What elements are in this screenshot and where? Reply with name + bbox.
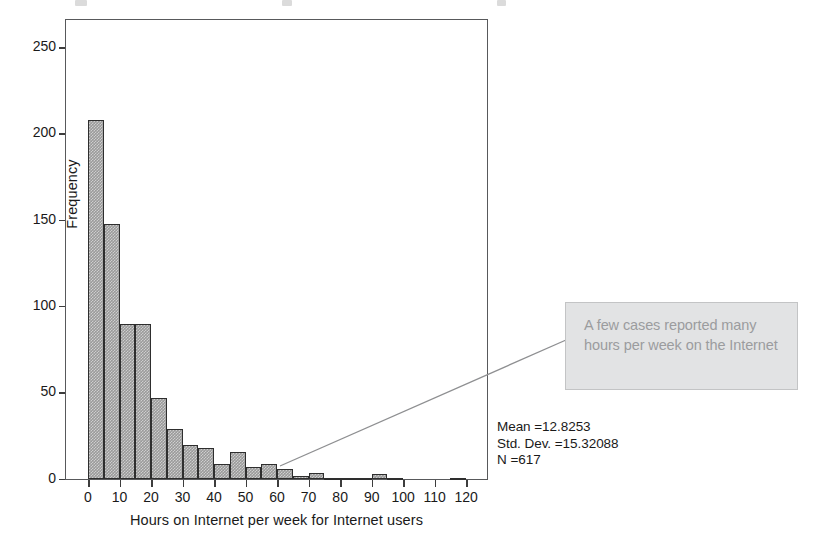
y-tick-label: 0 — [48, 470, 56, 486]
x-tick-mark — [120, 480, 122, 487]
x-tick-mark — [403, 480, 405, 487]
x-tick-mark — [88, 480, 90, 487]
x-tick-mark — [309, 480, 311, 487]
stat-n: N =617 — [497, 452, 619, 469]
y-tick-label: 50 — [40, 383, 56, 399]
y-tick-mark — [59, 306, 65, 308]
y-tick-mark — [59, 392, 65, 394]
x-tick-mark — [214, 480, 216, 487]
y-tick-label: 250 — [33, 38, 56, 54]
x-tick-mark — [183, 480, 185, 487]
x-tick-mark — [151, 480, 153, 487]
y-tick-mark — [59, 479, 65, 481]
y-tick-mark — [59, 133, 65, 135]
y-tick-label: 150 — [33, 211, 56, 227]
annotation-callout-text: A few cases reported many hours per week… — [584, 315, 789, 355]
x-tick-mark — [246, 480, 248, 487]
cropped-title-remnant — [75, 0, 87, 6]
y-tick-mark — [59, 47, 65, 49]
y-tick-mark — [59, 220, 65, 222]
x-tick-mark — [466, 480, 468, 487]
y-tick-label: 200 — [33, 124, 56, 140]
cropped-title-remnant — [497, 0, 506, 6]
cropped-title-remnant — [282, 0, 292, 6]
statistics-block: Mean =12.8253 Std. Dev. =15.32088 N =617 — [497, 419, 619, 469]
stat-std-dev: Std. Dev. =15.32088 — [497, 436, 619, 453]
x-tick-mark — [372, 480, 374, 487]
x-tick-mark — [340, 480, 342, 487]
x-tick-mark — [435, 480, 437, 487]
y-tick-label: 100 — [33, 297, 56, 313]
x-tick-label: 120 — [446, 489, 486, 505]
plot-frame — [65, 19, 488, 480]
histogram-figure: Frequency 050100150200250 01020304050607… — [0, 0, 813, 549]
y-axis-title: Frequency — [64, 104, 80, 284]
x-tick-mark — [277, 480, 279, 487]
annotation-callout-box: A few cases reported many hours per week… — [565, 302, 798, 390]
x-axis-title: Hours on Internet per week for Internet … — [65, 512, 488, 528]
stat-mean: Mean =12.8253 — [497, 419, 619, 436]
